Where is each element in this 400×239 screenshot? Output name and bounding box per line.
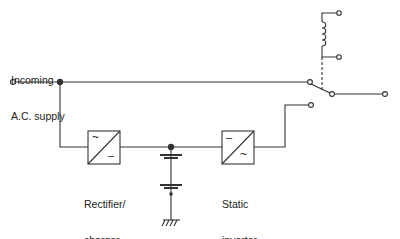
rectifier-ac-symbol: ~ <box>92 131 99 143</box>
rectifier-label: Rectifier/ charger <box>84 174 125 239</box>
relay-coil-icon <box>322 11 341 60</box>
inverter-ac-symbol: ~ <box>240 148 247 160</box>
transfer-switch[interactable] <box>311 84 330 93</box>
inverter-label-line1: Static <box>222 198 257 210</box>
bypass-contact <box>308 80 313 85</box>
rectifier-label-line2: charger <box>84 234 125 239</box>
inverter-output <box>254 105 309 147</box>
output-common <box>330 92 335 97</box>
incoming-label-line2: A.C. supply <box>11 110 65 122</box>
incoming-label-line1: Incoming <box>11 74 65 86</box>
ups-diagram: ~ – – ~ Incoming A.C. supply Rectifier/ … <box>0 0 400 239</box>
rectifier-dc-symbol: – <box>108 149 114 161</box>
output-terminal <box>383 92 388 97</box>
inverter-label-line2: inverter <box>222 234 257 239</box>
rectifier-label-line1: Rectifier/ <box>84 198 125 210</box>
inverter-label: Static inverter <box>222 174 257 239</box>
ground-icon <box>162 220 180 226</box>
battery-icon <box>160 147 182 220</box>
incoming-supply-label: Incoming A.C. supply <box>11 50 65 146</box>
inverter-dc-symbol: – <box>226 131 232 143</box>
